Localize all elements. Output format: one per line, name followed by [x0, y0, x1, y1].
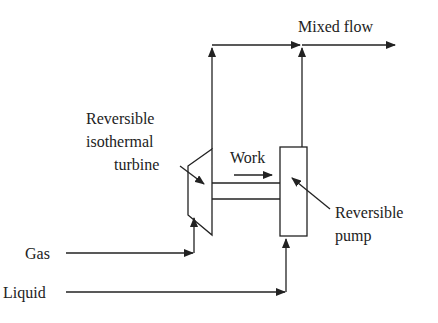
mixed-flow-label: Mixed flow [298, 18, 374, 35]
work-label: Work [230, 149, 265, 166]
turbine-shape [188, 149, 212, 235]
gas-label: Gas [25, 245, 50, 262]
turbine-label-3: turbine [114, 156, 159, 173]
pump-shape [280, 147, 307, 236]
liquid-label: Liquid [3, 284, 46, 302]
turbine-label-2: isothermal [86, 133, 154, 150]
turbine-label-1: Reversible [86, 110, 154, 127]
pump-label-1: Reversible [335, 204, 403, 221]
process-diagram: Mixed flow Reversible isothermal turbine… [0, 0, 438, 323]
pump-label-2: pump [335, 227, 371, 245]
